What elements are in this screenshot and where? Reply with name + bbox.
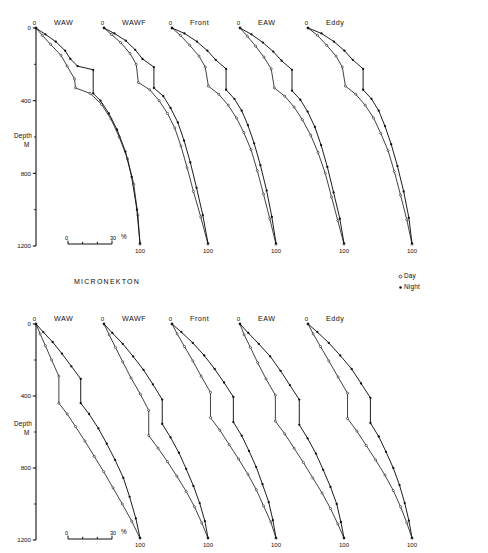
- data-point-upper-eddy-day-10: [387, 150, 389, 152]
- panel-end-label-lower-wawf: 100: [203, 542, 214, 548]
- data-point-lower-front-night-2: [192, 342, 194, 344]
- series-line-lower-eddy-day: [308, 324, 412, 538]
- data-point-lower-front-night-10: [255, 466, 257, 468]
- data-point-lower-wawf-night-10: [185, 468, 187, 470]
- data-point-lower-eddy-night-8: [378, 435, 380, 437]
- data-point-lower-wawf-day-10: [176, 475, 178, 477]
- data-point-lower-front-night-6: [232, 396, 234, 398]
- data-point-upper-wawf-night-8: [169, 107, 171, 109]
- y-axis-tick-label-lower-800: 800: [21, 464, 32, 471]
- data-point-upper-eaw-day-4: [270, 68, 272, 70]
- data-point-upper-eaw-day-8: [301, 119, 303, 121]
- data-point-lower-eddy-night-10: [392, 467, 394, 469]
- panel-end-label-upper-front: 100: [271, 248, 282, 254]
- data-point-upper-wawf-day-1: [110, 33, 112, 35]
- data-point-upper-eddy-day-12: [400, 194, 402, 196]
- data-point-lower-eaw-night-14: [343, 537, 345, 539]
- data-point-upper-eaw-day-10: [317, 151, 319, 153]
- y-axis-tick-label-lower-1200: 1200: [17, 536, 31, 543]
- data-point-lower-wawf-day-3: [122, 361, 124, 363]
- data-point-upper-front-night-8: [241, 110, 243, 112]
- data-point-upper-waw-day-1: [41, 34, 43, 36]
- data-point-lower-waw-day-3: [51, 359, 53, 361]
- y-axis-tick-label-lower-400: 400: [21, 392, 32, 399]
- series-line-upper-eaw-day: [240, 28, 344, 244]
- scalebar-start-lower: 0: [65, 531, 68, 537]
- y-axis-name-upper: Depth: [14, 133, 32, 139]
- data-point-upper-wawf-day-8: [166, 112, 168, 114]
- data-point-upper-wawf-night-3: [134, 49, 136, 51]
- panel-origin-label-lower-eddy: 0: [305, 316, 309, 322]
- data-point-upper-eaw-night-14: [343, 242, 345, 244]
- data-point-upper-front-night-13: [271, 216, 273, 218]
- data-point-lower-eaw-night-11: [329, 486, 331, 488]
- data-point-upper-eddy-night-0: [307, 27, 309, 29]
- data-point-upper-eaw-day-5: [273, 87, 275, 89]
- data-point-lower-eddy-night-4: [351, 368, 353, 370]
- data-point-lower-front-day-4: [200, 375, 202, 377]
- data-point-lower-front-day-8: [228, 444, 230, 446]
- data-point-lower-eaw-day-9: [302, 462, 304, 464]
- data-point-upper-front-night-3: [206, 50, 208, 52]
- data-point-upper-eaw-night-13: [339, 218, 341, 220]
- data-point-upper-eddy-day-8: [372, 117, 374, 119]
- data-point-lower-eaw-day-12: [329, 507, 331, 509]
- panel-origin-label-upper-waw: 0: [33, 20, 37, 26]
- data-point-upper-front-night-11: [259, 164, 261, 166]
- data-point-lower-front-night-9: [248, 450, 250, 452]
- data-point-lower-waw-day-2: [44, 345, 46, 347]
- data-point-lower-front-night-11: [261, 483, 263, 485]
- data-point-upper-front-night-6: [225, 89, 227, 91]
- data-point-upper-wawf-night-10: [183, 139, 185, 141]
- data-point-upper-front-night-4: [215, 59, 217, 61]
- data-point-lower-eaw-day-5: [274, 394, 276, 396]
- data-point-lower-eddy-night-12: [404, 502, 406, 504]
- data-point-lower-waw-night-13: [135, 517, 137, 519]
- data-point-upper-waw-night-12: [131, 176, 133, 178]
- data-point-lower-eaw-night-6: [298, 398, 300, 400]
- data-point-upper-front-day-9: [243, 131, 245, 133]
- data-point-upper-front-night-9: [247, 124, 249, 126]
- panel-origin-label-upper-front: 0: [169, 20, 173, 26]
- panel-upper-eaw: EAW0100: [237, 18, 350, 254]
- data-point-upper-wawf-night-1: [113, 32, 115, 34]
- data-point-lower-wawf-night-9: [178, 452, 180, 454]
- data-point-upper-front-day-3: [198, 55, 200, 57]
- data-point-upper-wawf-day-9: [174, 127, 176, 129]
- data-point-upper-front-night-1: [183, 32, 185, 34]
- data-point-lower-eddy-day-12: [400, 506, 402, 508]
- data-point-upper-waw-night-10: [116, 129, 118, 131]
- y-axis-tick-label-upper-400: 400: [21, 97, 32, 104]
- data-point-lower-waw-night-3: [61, 353, 63, 355]
- data-point-lower-eaw-day-2: [249, 346, 251, 348]
- data-point-lower-waw-night-5: [80, 378, 82, 380]
- data-point-lower-eaw-night-10: [322, 469, 324, 471]
- data-point-lower-eaw-night-0: [239, 323, 241, 325]
- data-point-lower-wawf-day-4: [130, 377, 132, 379]
- data-point-upper-eddy-night-11: [396, 165, 398, 167]
- data-point-lower-waw-night-4: [70, 365, 72, 367]
- data-point-upper-eaw-night-9: [314, 126, 316, 128]
- data-point-upper-eaw-night-1: [250, 33, 252, 35]
- data-point-upper-front-day-10: [250, 149, 252, 151]
- section-title-micronekton: MICRONEKTON: [74, 278, 140, 285]
- data-point-lower-front-day-2: [183, 345, 185, 347]
- data-point-upper-waw-night-5: [76, 65, 78, 67]
- data-point-lower-waw-day-7: [74, 426, 76, 428]
- data-point-lower-eddy-night-6: [369, 397, 371, 399]
- series-line-upper-front-night: [172, 28, 276, 243]
- panel-label-lower-waw: WAW: [54, 314, 73, 323]
- data-point-upper-eaw-night-10: [320, 144, 322, 146]
- panel-origin-label-lower-wawf: 0: [101, 316, 105, 322]
- panel-label-upper-front: Front: [190, 18, 209, 27]
- data-point-upper-eaw-day-2: [255, 45, 257, 47]
- y-axis-unit-upper: M: [24, 142, 30, 148]
- data-point-lower-waw-day-9: [93, 455, 95, 457]
- data-point-upper-eddy-night-5: [362, 68, 364, 70]
- data-point-upper-wawf-night-13: [202, 214, 204, 216]
- data-point-upper-front-night-2: [196, 40, 198, 42]
- data-point-lower-eddy-night-5: [360, 382, 362, 384]
- data-point-lower-front-night-4: [213, 368, 215, 370]
- data-point-lower-wawf-day-5: [139, 393, 141, 395]
- series-line-lower-front-day: [172, 324, 276, 538]
